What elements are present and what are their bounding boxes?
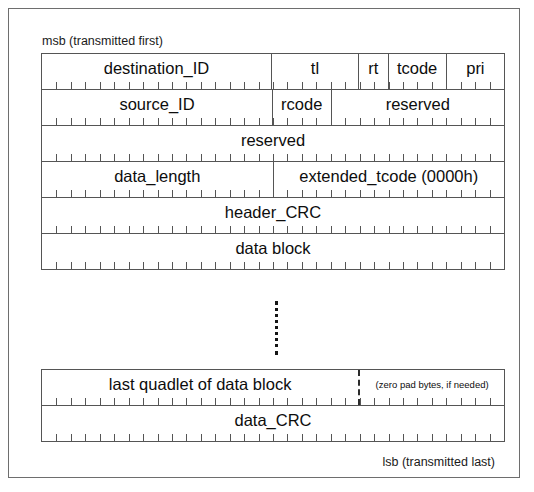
field-cell: tcode — [388, 54, 446, 89]
field-label: (zero pad bytes, if needed) — [376, 380, 489, 390]
row-source: source_IDrcodereserved — [42, 90, 504, 126]
field-cell: reserved — [42, 126, 504, 161]
header-packet-table: destination_IDtlrttcodeprisource_IDrcode… — [41, 53, 505, 270]
trailer-packet-table: last quadlet of data block(zero pad byte… — [41, 369, 505, 442]
row-data-block: data block — [42, 234, 504, 270]
row-header-crc: header_CRC — [42, 198, 504, 234]
lsb-label: lsb (transmitted last) — [382, 455, 495, 469]
row-reserved: reserved — [42, 126, 504, 162]
field-cell: pri — [446, 54, 504, 89]
field-cell: last quadlet of data block — [42, 370, 358, 405]
field-cell: header_CRC — [42, 198, 504, 233]
field-label: reserved — [241, 132, 305, 149]
row-data-crc: data_CRC — [42, 406, 504, 442]
continuation-dots-icon — [275, 301, 278, 355]
field-label: destination_ID — [104, 60, 210, 77]
field-label: data_CRC — [234, 412, 311, 429]
field-label: header_CRC — [225, 204, 321, 221]
field-cell: tl — [271, 54, 358, 89]
field-cell: data_CRC — [42, 406, 504, 441]
field-cell: source_ID — [42, 90, 272, 125]
field-label: extended_tcode (0000h) — [299, 168, 478, 185]
field-label: data block — [235, 240, 310, 257]
field-cell: destination_ID — [42, 54, 271, 89]
field-cell: reserved — [331, 90, 505, 125]
field-label: rcode — [281, 96, 322, 113]
field-cell: data block — [42, 234, 504, 269]
field-label: source_ID — [119, 96, 194, 113]
diagram-frame: msb (transmitted first) destination_IDtl… — [8, 8, 520, 478]
packet-format-diagram: msb (transmitted first) destination_IDtl… — [0, 0, 534, 492]
row-data-length: data_lengthextended_tcode (0000h) — [42, 162, 504, 198]
field-cell: extended_tcode (0000h) — [273, 162, 505, 197]
msb-label: msb (transmitted first) — [42, 34, 163, 48]
row-last-quadlet: last quadlet of data block(zero pad byte… — [42, 370, 504, 406]
row-destination: destination_IDtlrttcodepri — [42, 54, 504, 90]
field-label: last quadlet of data block — [109, 376, 292, 393]
field-label: rt — [368, 60, 378, 77]
field-cell: rcode — [272, 90, 331, 125]
field-cell: rt — [358, 54, 388, 89]
field-cell: (zero pad bytes, if needed) — [358, 370, 504, 405]
field-cell: data_length — [42, 162, 273, 197]
field-label: tcode — [397, 60, 437, 77]
field-label: pri — [466, 60, 484, 77]
field-label: tl — [311, 60, 319, 77]
field-label: reserved — [386, 96, 450, 113]
field-label: data_length — [114, 168, 200, 185]
